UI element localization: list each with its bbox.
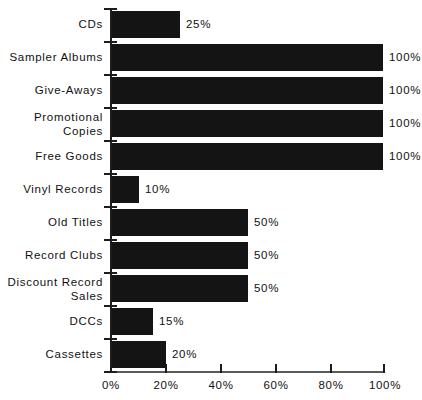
x-axis-tick-label: 0% (102, 379, 120, 391)
y-axis-tick (104, 41, 117, 43)
bar-rect (112, 176, 139, 203)
bar-value-label: 50% (254, 249, 279, 261)
y-axis-tick (104, 74, 117, 76)
y-axis-tick (104, 173, 117, 175)
y-axis-tick (104, 272, 117, 274)
bar-rect (112, 341, 166, 368)
bar-value-label: 100% (389, 84, 421, 96)
bar-chart: CDs 25% Sampler Albums 100% Give-Aways 1… (0, 0, 422, 400)
y-axis-tick (104, 140, 117, 142)
x-axis-tick-label: 80% (318, 379, 343, 391)
bar-rect (112, 275, 248, 302)
y-axis-tick (104, 338, 117, 340)
bar-category-label: Discount Record Sales (7, 276, 103, 303)
bar-category-label: Old Titles (48, 216, 103, 230)
bar-category-label: Vinyl Records (23, 183, 103, 197)
bar-rect (112, 77, 383, 104)
x-axis-tick (220, 364, 222, 373)
bar-value-label: 100% (389, 51, 421, 63)
bar-value-label: 50% (254, 282, 279, 294)
bar-rect (112, 209, 248, 236)
bar-category-label: Sampler Albums (9, 51, 103, 65)
bar-category-label: CDs (79, 18, 103, 32)
bar-value-label: 10% (145, 183, 170, 195)
bar-value-label: 100% (389, 117, 421, 129)
bar-category-label: Promotional Copies (34, 111, 103, 138)
x-axis-tick (330, 364, 332, 373)
bar-value-label: 25% (186, 18, 211, 30)
x-axis-tick-label: 40% (208, 379, 233, 391)
bar-category-label: Give-Aways (35, 84, 103, 98)
bar-category-label: Cassettes (46, 348, 103, 362)
plot-area: CDs 25% Sampler Albums 100% Give-Aways 1… (0, 0, 422, 400)
x-axis-tick (383, 364, 385, 373)
x-axis-tick-label: 100% (369, 379, 401, 391)
bar-value-label: 100% (389, 150, 421, 162)
bar-rect (112, 143, 383, 170)
y-axis-tick (104, 206, 117, 208)
bar-rect (112, 308, 153, 335)
bar-category-label: DCCs (70, 315, 103, 329)
bar-rect (112, 11, 180, 38)
y-axis-tick (104, 8, 117, 10)
y-axis-tick (104, 107, 117, 109)
x-axis-line (110, 371, 384, 373)
bar-rect (112, 242, 248, 269)
bar-value-label: 15% (159, 315, 184, 327)
bar-value-label: 50% (254, 216, 279, 228)
bar-value-label: 20% (172, 348, 197, 360)
x-axis-tick-label: 20% (153, 379, 178, 391)
bar-rect (112, 44, 383, 71)
y-axis-tick (104, 305, 117, 307)
bar-category-label: Free Goods (35, 150, 103, 164)
bar-rect (112, 110, 383, 137)
y-axis-tick (104, 239, 117, 241)
bar-category-label: Record Clubs (25, 249, 103, 263)
x-axis-tick-label: 60% (263, 379, 288, 391)
x-axis-tick (275, 364, 277, 373)
